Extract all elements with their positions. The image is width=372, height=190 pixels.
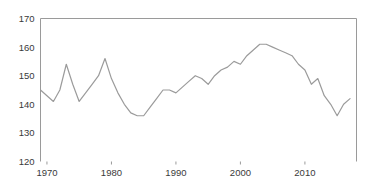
x-tick-label: 1990 [165,167,186,178]
x-tick-label: 1970 [36,167,57,178]
x-axis-tick-marks [47,162,305,165]
line-chart: 120130140150160170 19701980199020002010 [0,0,372,190]
y-tick-label: 120 [19,156,35,167]
y-tick-label: 160 [19,42,35,53]
y-tick-label: 140 [19,99,35,110]
data-series-line [41,44,351,116]
y-tick-label: 150 [19,70,35,81]
y-axis-tick-labels: 120130140150160170 [19,13,35,167]
x-tick-label: 1980 [101,167,122,178]
chart-container: 120130140150160170 19701980199020002010 [0,0,372,190]
y-tick-label: 130 [19,127,35,138]
x-tick-label: 2010 [294,167,315,178]
x-tick-label: 2000 [230,167,251,178]
x-axis-tick-labels: 19701980199020002010 [36,167,315,178]
y-tick-label: 170 [19,13,35,24]
